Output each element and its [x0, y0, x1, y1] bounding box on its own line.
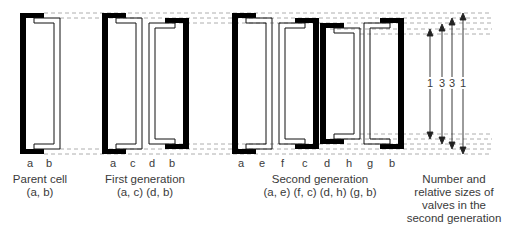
- size-value-1: 1: [427, 77, 433, 89]
- valve-label-d: d: [324, 157, 330, 169]
- caption-valves: (a, c) (d, b): [100, 186, 190, 199]
- first-generation: [102, 13, 189, 154]
- parent-cell: [20, 13, 60, 154]
- valve-label-e: e: [259, 157, 265, 169]
- caption-line: Number and: [400, 173, 508, 186]
- caption-parent-cell: Parent cell (a, b): [8, 173, 72, 199]
- caption-valve-sizes: Number and relative sizes of valves in t…: [400, 173, 508, 225]
- caption-line: relative sizes of: [400, 186, 508, 199]
- second-generation: [232, 13, 404, 154]
- size-value-4: 1: [460, 77, 466, 89]
- caption-title: Second generation: [260, 173, 380, 186]
- valve-label-h: h: [346, 157, 352, 169]
- valve-label-b: b: [169, 157, 175, 169]
- valve-label-d: d: [149, 157, 155, 169]
- caption-title: First generation: [100, 173, 190, 186]
- caption-first-generation: First generation (a, c) (d, b): [100, 173, 190, 199]
- valve-label-g: g: [367, 157, 373, 169]
- valve-label-f: f: [281, 157, 284, 169]
- valve-label-a: a: [27, 157, 33, 169]
- size-value-3: 3: [449, 77, 455, 89]
- valve-label-a: a: [110, 157, 116, 169]
- size-value-2: 3: [439, 77, 445, 89]
- caption-line: valves in the: [400, 199, 508, 212]
- valve-label-a: a: [238, 157, 244, 169]
- caption-valves: (a, e) (f, c) (d, h) (g, b): [260, 186, 380, 199]
- caption-valves: (a, b): [8, 186, 72, 199]
- valve-label-b: b: [46, 157, 52, 169]
- caption-title: Parent cell: [8, 173, 72, 186]
- valve-label-c: c: [130, 157, 136, 169]
- caption-line: second generation: [400, 212, 508, 225]
- valve-label-c: c: [302, 157, 308, 169]
- caption-second-generation: Second generation (a, e) (f, c) (d, h) (…: [260, 173, 380, 199]
- dashed-guides: [44, 13, 492, 154]
- valve-label-b: b: [389, 157, 395, 169]
